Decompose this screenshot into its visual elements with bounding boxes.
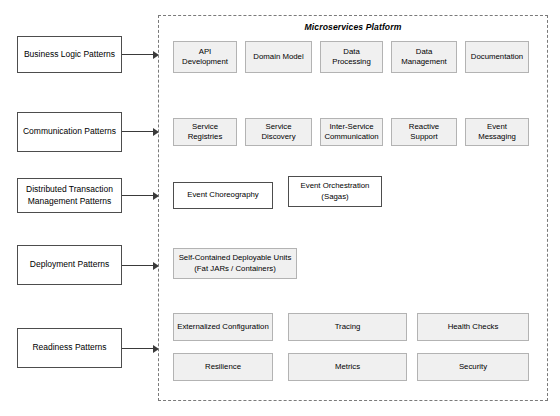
pattern-chip-label: Health Checks bbox=[448, 322, 499, 332]
pattern-chip-label: Reactive Support bbox=[395, 122, 453, 142]
pattern-chip-label: Metrics bbox=[335, 362, 360, 372]
category-label: Readiness Patterns bbox=[32, 342, 106, 353]
pattern-chip-label: Externalized Configuration bbox=[177, 322, 268, 332]
arrow-shaft bbox=[122, 54, 154, 55]
pattern-chip-resilience[interactable]: Resilience bbox=[173, 353, 273, 381]
pattern-chip-label: Service Registries bbox=[177, 122, 233, 142]
category-label: Distributed Transaction Management Patte… bbox=[22, 184, 117, 207]
pattern-chip-label: Data Processing bbox=[324, 47, 379, 67]
arrow-communication-patterns bbox=[122, 127, 159, 136]
category-box-deployment-patterns[interactable]: Deployment Patterns bbox=[17, 245, 122, 285]
pattern-chip-label: Domain Model bbox=[253, 52, 303, 62]
pattern-chip-self-contained-deployable-units[interactable]: Self-Contained Deployable Units (Fat JAR… bbox=[173, 248, 297, 279]
pattern-chip-label: Event Messaging bbox=[469, 122, 525, 142]
diagram-canvas: Business Logic Patterns Communication Pa… bbox=[0, 0, 560, 416]
pattern-chip-label: Security bbox=[459, 362, 487, 372]
pattern-chip-label: Documentation bbox=[471, 52, 523, 62]
category-label: Business Logic Patterns bbox=[24, 49, 115, 60]
pattern-chip-event-messaging[interactable]: Event Messaging bbox=[465, 118, 529, 146]
category-box-readiness-patterns[interactable]: Readiness Patterns bbox=[17, 328, 122, 368]
pattern-chip-label: Inter-Service Communication bbox=[324, 122, 379, 142]
arrow-shaft bbox=[122, 131, 154, 132]
pattern-chip-domain-model[interactable]: Domain Model bbox=[245, 41, 312, 73]
platform-title: Microservices Platform bbox=[159, 22, 547, 32]
pattern-chip-documentation[interactable]: Documentation bbox=[465, 41, 529, 73]
pattern-chip-inter-service-communication[interactable]: Inter-Service Communication bbox=[320, 118, 383, 146]
category-box-distributed-transaction-management-patterns[interactable]: Distributed Transaction Management Patte… bbox=[17, 178, 122, 213]
pattern-chip-label: Self-Contained Deployable Units (Fat JAR… bbox=[177, 253, 293, 273]
category-label: Deployment Patterns bbox=[30, 259, 109, 270]
pattern-chip-health-checks[interactable]: Health Checks bbox=[417, 313, 529, 341]
arrow-shaft bbox=[122, 348, 154, 349]
pattern-chip-reactive-support[interactable]: Reactive Support bbox=[391, 118, 457, 146]
arrow-shaft bbox=[122, 265, 154, 266]
pattern-chip-externalized-configuration[interactable]: Externalized Configuration bbox=[173, 313, 273, 341]
category-box-communication-patterns[interactable]: Communication Patterns bbox=[17, 112, 122, 152]
microservices-platform-container: Microservices Platform API Development D… bbox=[158, 15, 548, 401]
pattern-chip-label: Event Choreography bbox=[187, 190, 259, 200]
pattern-chip-label: Tracing bbox=[335, 322, 361, 332]
arrow-distributed-transaction-management-patterns bbox=[122, 191, 159, 200]
arrow-business-logic-patterns bbox=[122, 50, 159, 59]
pattern-chip-data-processing[interactable]: Data Processing bbox=[320, 41, 383, 73]
pattern-chip-label: Data Management bbox=[395, 47, 453, 67]
pattern-chip-tracing[interactable]: Tracing bbox=[288, 313, 407, 341]
pattern-chip-label: Event Orchestration (Sagas) bbox=[292, 181, 378, 201]
arrow-readiness-patterns bbox=[122, 344, 159, 353]
pattern-chip-label: API Development bbox=[177, 47, 233, 67]
pattern-chip-event-choreography[interactable]: Event Choreography bbox=[173, 182, 273, 209]
pattern-chip-event-orchestration-sagas[interactable]: Event Orchestration (Sagas) bbox=[288, 176, 382, 207]
pattern-chip-metrics[interactable]: Metrics bbox=[288, 353, 407, 381]
pattern-chip-label: Resilience bbox=[205, 362, 241, 372]
category-label: Communication Patterns bbox=[23, 126, 116, 137]
pattern-chip-service-discovery[interactable]: Service Discovery bbox=[245, 118, 312, 146]
pattern-chip-data-management[interactable]: Data Management bbox=[391, 41, 457, 73]
pattern-chip-security[interactable]: Security bbox=[417, 353, 529, 381]
pattern-chip-api-development[interactable]: API Development bbox=[173, 41, 237, 73]
category-box-business-logic-patterns[interactable]: Business Logic Patterns bbox=[17, 36, 122, 73]
arrow-deployment-patterns bbox=[122, 261, 159, 270]
arrow-shaft bbox=[122, 195, 154, 196]
pattern-chip-service-registries[interactable]: Service Registries bbox=[173, 118, 237, 146]
pattern-chip-label: Service Discovery bbox=[249, 122, 308, 142]
